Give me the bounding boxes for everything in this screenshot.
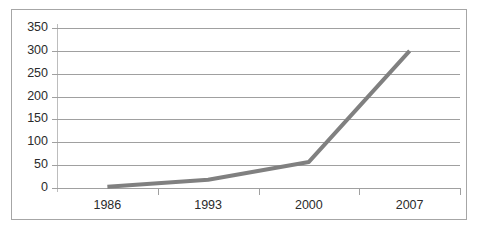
series-line-path <box>107 51 409 187</box>
chart-screenshot: 350 300 250 200 150 100 50 0 1986 1993 2… <box>0 0 477 238</box>
series-line-chart <box>0 0 477 238</box>
